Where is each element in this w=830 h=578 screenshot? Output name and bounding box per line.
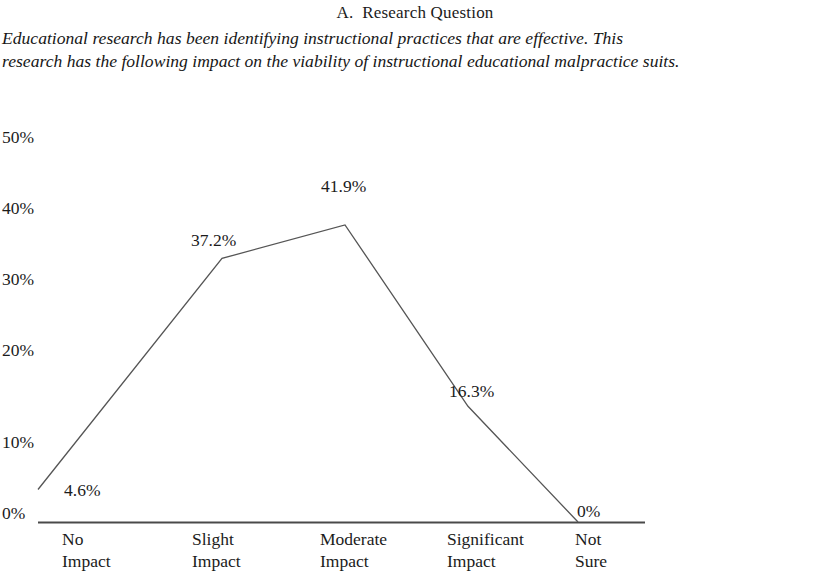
x-axis-category-significant-impact: Significant Impact — [447, 528, 524, 572]
prompt-paragraph: Educational research has been identifyin… — [0, 24, 830, 73]
data-label-slight-impact: 37.2% — [191, 231, 236, 250]
data-series-line — [38, 225, 578, 522]
prompt-line-2: research has the following impact on the… — [2, 50, 830, 73]
data-label-not-sure: 0% — [577, 502, 600, 521]
x-axis-category-line: Impact — [320, 550, 387, 572]
x-axis-category-line: Sure — [575, 550, 607, 572]
page-title: A. Research Question — [0, 0, 830, 24]
data-label-no-impact: 4.6% — [64, 481, 100, 500]
x-axis-category-line: Impact — [192, 550, 241, 572]
x-axis-category-line: Impact — [62, 550, 111, 572]
x-axis-category-line: Moderate — [320, 528, 387, 550]
x-axis-category-no-impact: No Impact — [62, 528, 111, 572]
x-axis-category-slight-impact: Slight Impact — [192, 528, 241, 572]
data-label-moderate-impact: 41.9% — [321, 177, 366, 196]
x-axis-category-line: Not — [575, 528, 607, 550]
x-axis-category-not-sure: Not Sure — [575, 528, 607, 572]
prompt-line-1: Educational research has been identifyin… — [2, 27, 830, 50]
heading-block: A. Research Question Educational researc… — [0, 0, 830, 73]
line-chart: 50% 40% 30% 20% 10% 0% 4.6% 37.2% 41.9% … — [0, 100, 830, 578]
x-axis-category-moderate-impact: Moderate Impact — [320, 528, 387, 572]
data-label-significant-impact: 16.3% — [449, 382, 494, 401]
plot-svg — [0, 100, 830, 578]
x-axis-category-line: No — [62, 528, 111, 550]
x-axis-category-line: Slight — [192, 528, 241, 550]
x-axis-category-line: Significant — [447, 528, 524, 550]
x-axis-category-line: Impact — [447, 550, 524, 572]
